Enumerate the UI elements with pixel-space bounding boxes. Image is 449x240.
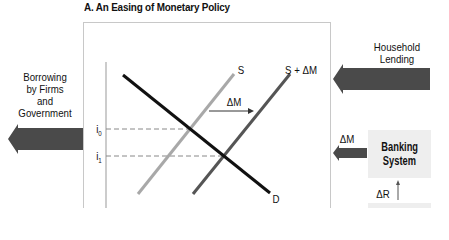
supply-curve-s-plus-dm	[193, 74, 290, 194]
reserves-box-partial	[368, 203, 431, 208]
household-line-2: Lending	[357, 53, 436, 65]
household-lending-arrow-icon	[333, 64, 430, 94]
i0-subscript: 0	[98, 130, 101, 137]
household-lending-label: Household Lending	[357, 41, 436, 65]
borrowing-label: Borrowing by Firms and Government	[7, 71, 83, 119]
delta-m-bank-label: ΔM	[337, 133, 356, 145]
shift-arrow-icon	[248, 108, 254, 114]
demand-label: D	[270, 193, 282, 205]
delta-r-label: ΔR	[374, 188, 392, 200]
i0-tick-label: i0	[94, 123, 105, 140]
borrowing-line-3: and	[7, 95, 83, 107]
borrowing-line-4: Government	[7, 107, 83, 119]
shifted-supply-label: S + ΔM	[282, 64, 321, 76]
borrowing-line-1: Borrowing	[7, 71, 83, 83]
supply-label: S	[235, 64, 247, 76]
borrowing-line-2: by Firms	[7, 83, 83, 95]
banking-line-1: Banking	[381, 140, 418, 154]
demand-curve-d	[123, 75, 270, 193]
delta-r-arrowhead-icon	[396, 180, 400, 185]
delta-m-arrow-icon	[333, 145, 367, 161]
household-line-1: Household	[357, 41, 436, 53]
supply-curve-s	[138, 74, 234, 194]
borrowing-arrow-icon	[8, 124, 83, 154]
shift-label: ΔM	[223, 96, 244, 108]
i1-subscript: 1	[98, 157, 101, 164]
i1-tick-label: i1	[94, 150, 105, 167]
banking-line-2: System	[383, 154, 416, 168]
banking-system-box: Banking System	[368, 130, 431, 178]
